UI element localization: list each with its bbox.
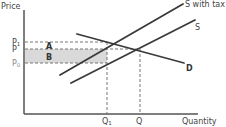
p-label: P <box>12 45 17 54</box>
p0-label-sub: 0 <box>17 62 21 68</box>
q1-label-sub: 1 <box>108 120 112 126</box>
x-axis-label: Quantity <box>182 117 217 126</box>
supply-demand-tax-diagram: Price Quantity P1 P P0 A B Q1 Q S with t… <box>0 0 226 127</box>
demand-label: D <box>186 64 193 73</box>
area-b-label: B <box>46 53 52 62</box>
supply-with-tax-curve <box>60 4 183 75</box>
supply-label: S <box>195 23 200 32</box>
y-axis-label: Price <box>1 2 21 11</box>
curves <box>60 4 195 83</box>
q-label: Q <box>136 117 142 126</box>
supply-with-tax-label: S with tax <box>185 0 225 9</box>
area-a-label: A <box>46 42 53 51</box>
p0-label: P0 <box>12 59 21 68</box>
p1-label-sub: 1 <box>17 41 21 47</box>
q1-label: Q1 <box>102 117 112 126</box>
